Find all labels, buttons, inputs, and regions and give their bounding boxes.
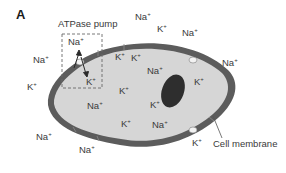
ion-label-na-ext-bottom: Na+ xyxy=(79,144,95,155)
ion-label-k-ext-bottom-right: K+ xyxy=(192,137,202,148)
cell-diagram: A ATPase pump Cell membrane Na+K+Na+K+Na… xyxy=(0,0,286,173)
ion-label-k-ext-top: K+ xyxy=(157,23,167,34)
ion-label-na-ext-left-top: Na+ xyxy=(33,54,49,65)
cell-membrane-label: Cell membrane xyxy=(213,138,277,149)
arrowhead-up-icon xyxy=(77,50,82,56)
ion-label-na-pump-out: Na+ xyxy=(68,36,84,47)
ion-label-na-ext-bottom-left: Na+ xyxy=(36,131,52,142)
atpase-pump-label: ATPase pump xyxy=(58,18,118,29)
panel-letter: A xyxy=(16,7,26,22)
ion-label-na-ext-top: Na+ xyxy=(135,11,151,22)
cell-membrane-leader xyxy=(213,116,222,138)
ion-label-na-ext-top-right: Na+ xyxy=(182,27,198,38)
ion-label-na-ext-right: Na+ xyxy=(222,57,238,68)
ion-channel-top-right xyxy=(189,57,197,63)
ion-label-k-ext-left: K+ xyxy=(27,81,37,92)
ion-channel-bottom-right xyxy=(189,127,197,133)
